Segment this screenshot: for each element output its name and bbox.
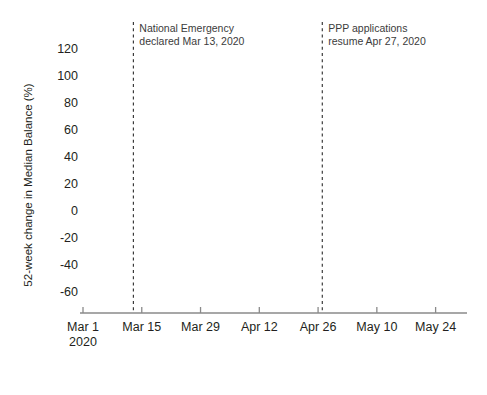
x-tick-sublabel-year: 2020 (69, 335, 97, 349)
y-tick-label: -60 (60, 285, 78, 299)
y-tick-label: 40 (64, 150, 78, 164)
x-tick-label: Apr 12 (241, 320, 278, 334)
y-axis-title-group: 52-week change in Median Balance (%) (22, 83, 34, 286)
x-tick-label: Mar 1 (67, 320, 99, 334)
x-tick-label: Apr 26 (300, 320, 337, 334)
x-tick-label: May 24 (415, 320, 456, 334)
y-tick-label: -40 (60, 258, 78, 272)
annotation-text-ppp-applications-line1: PPP applications (328, 22, 407, 34)
annotation-text-national-emergency-line1: National Emergency (139, 22, 234, 34)
y-axis-title: 52-week change in Median Balance (%) (22, 83, 34, 286)
annotation-text-ppp-applications-line2: resume Apr 27, 2020 (328, 35, 426, 47)
y-tick-label: 80 (64, 96, 78, 110)
x-tick-label: Mar 29 (181, 320, 220, 334)
y-tick-label: 100 (57, 69, 78, 83)
y-tick-label: 60 (64, 123, 78, 137)
x-tick-label: Mar 15 (122, 320, 161, 334)
y-tick-label: 20 (64, 177, 78, 191)
y-tick-label: 120 (57, 42, 78, 56)
line-chart: 52-week change in Median Balance (%) -60… (0, 0, 487, 395)
x-tick-label: May 10 (356, 320, 397, 334)
chart-figure: 52-week change in Median Balance (%) -60… (0, 0, 487, 395)
y-tick-label: -20 (60, 231, 78, 245)
annotation-text-national-emergency-line2: declared Mar 13, 2020 (139, 35, 244, 47)
y-tick-label: 0 (71, 204, 78, 218)
